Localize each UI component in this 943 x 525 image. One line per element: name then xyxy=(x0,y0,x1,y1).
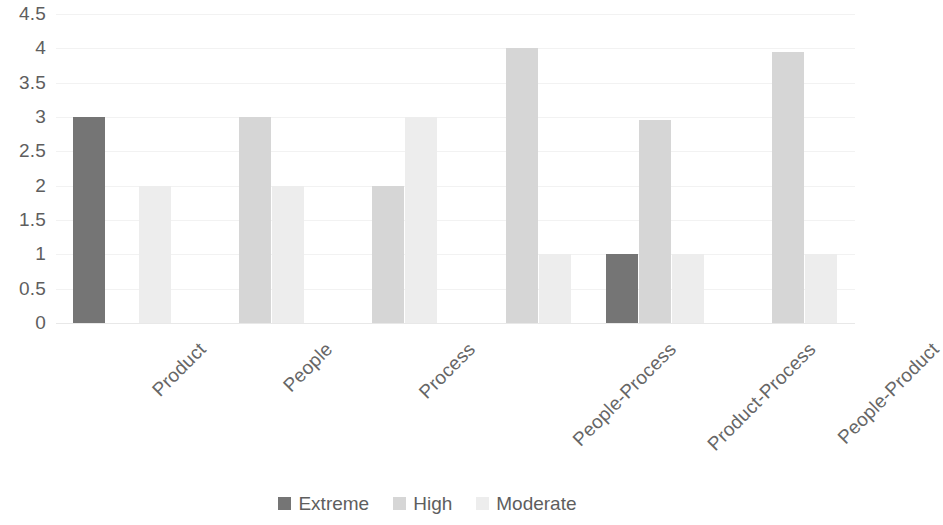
x-axis-category-label: People xyxy=(280,339,337,396)
x-axis: ProductPeopleProcessPeople-ProcessProduc… xyxy=(56,323,855,483)
y-axis-tick-label: 1 xyxy=(0,244,46,263)
legend-label: High xyxy=(413,494,452,513)
bar-group xyxy=(56,14,189,323)
y-axis: 4.543.532.521.510.50 xyxy=(0,14,46,323)
x-axis-category-label: People-Process xyxy=(569,339,680,450)
bar-group xyxy=(322,14,455,323)
legend-item: High xyxy=(393,494,452,513)
legend-item: Moderate xyxy=(476,494,576,513)
x-axis-category-label: People-Product xyxy=(834,339,943,448)
y-axis-tick-label: 2.5 xyxy=(0,141,46,160)
x-axis-category-label: Product-Process xyxy=(704,339,820,455)
y-axis-tick-label: 0.5 xyxy=(0,279,46,298)
y-axis-tick-label: 3.5 xyxy=(0,73,46,92)
bar-high xyxy=(239,117,271,323)
bar-high xyxy=(372,186,404,323)
legend-item: Extreme xyxy=(278,494,369,513)
y-axis-tick-label: 4.5 xyxy=(0,4,46,23)
y-axis-tick-label: 1.5 xyxy=(0,210,46,229)
legend-swatch-extreme-icon xyxy=(278,497,291,510)
chart-legend: ExtremeHighModerate xyxy=(0,494,855,513)
bar-extreme xyxy=(606,254,638,323)
bar-group xyxy=(456,14,589,323)
x-axis-category-label: Process xyxy=(416,339,480,403)
y-axis-tick-label: 3 xyxy=(0,107,46,126)
legend-swatch-high-icon xyxy=(393,497,406,510)
bar-moderate xyxy=(539,254,571,323)
bar-moderate xyxy=(139,186,171,323)
bar-group xyxy=(589,14,722,323)
bar-extreme xyxy=(73,117,105,323)
y-axis-tick-label: 2 xyxy=(0,176,46,195)
bar-high xyxy=(772,52,804,323)
x-axis-category-label: Product xyxy=(149,339,210,400)
bar-moderate xyxy=(272,186,304,323)
bar-high xyxy=(639,120,671,323)
bar-group xyxy=(189,14,322,323)
bar-high xyxy=(506,48,538,323)
legend-label: Extreme xyxy=(298,494,369,513)
y-axis-tick-label: 0 xyxy=(0,313,46,332)
bar-moderate xyxy=(805,254,837,323)
y-axis-tick-label: 4 xyxy=(0,38,46,57)
bar-moderate xyxy=(405,117,437,323)
bar-group xyxy=(722,14,855,323)
legend-swatch-moderate-icon xyxy=(476,497,489,510)
bar-moderate xyxy=(672,254,704,323)
legend-label: Moderate xyxy=(496,494,576,513)
plot-area xyxy=(56,14,855,323)
